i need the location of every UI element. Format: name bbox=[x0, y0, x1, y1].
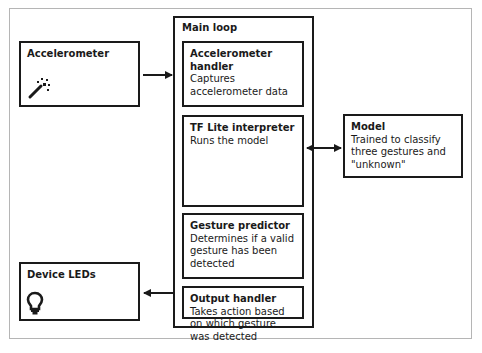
connector-arrows bbox=[0, 0, 482, 353]
